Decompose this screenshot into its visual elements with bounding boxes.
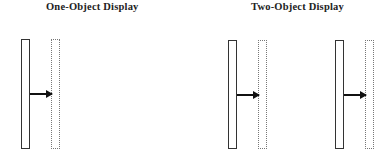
solid-bar	[21, 39, 30, 149]
arrow-right-icon	[30, 93, 52, 95]
solid-bar	[335, 40, 344, 149]
arrow-right-icon	[344, 94, 366, 96]
panel-title-one-object: One-Object Display	[46, 1, 139, 12]
arrow-right-icon	[237, 94, 259, 96]
solid-bar	[228, 40, 237, 149]
panel-title-two-object: Two-Object Display	[251, 1, 344, 12]
